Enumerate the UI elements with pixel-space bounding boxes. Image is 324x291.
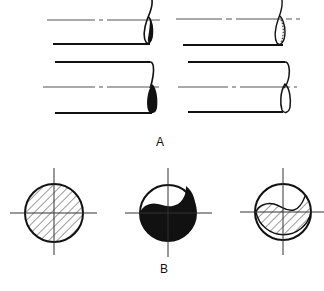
panel-b-label: B: [160, 262, 168, 276]
section-hatched-full: [10, 168, 97, 255]
bar-end-top-left: [47, 0, 160, 44]
bar-end-bottom-right: [178, 62, 297, 112]
panel-a-label: A: [156, 135, 164, 149]
section-yin-yang-solid: [125, 168, 212, 257]
bar-end-bottom-left: [43, 62, 160, 113]
tube-end-top-right: [176, 0, 300, 45]
technical-drawing: A B: [0, 0, 324, 291]
section-yin-yang-hatched: [240, 168, 324, 255]
